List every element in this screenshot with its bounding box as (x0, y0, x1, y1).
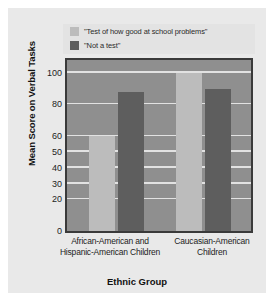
y-tick-label-100: 100 (47, 68, 62, 78)
y-tick-label-60: 60 (52, 131, 62, 141)
legend-swatch-test (70, 27, 79, 36)
x-axis-title: Ethnic Group (8, 276, 266, 287)
y-tick-label-50: 50 (52, 147, 62, 157)
legend-item-0: "Test of how good at school problems" (70, 24, 255, 38)
y-tick-label-20: 20 (52, 194, 62, 204)
y-tick-label-30: 30 (52, 179, 62, 189)
y-axis-title: Mean Score on Verbal Tasks (26, 29, 37, 179)
x-axis-category-0: African-American and Hispanic-American C… (58, 236, 162, 257)
legend-label-test: "Test of how good at school problems" (84, 27, 207, 36)
x-axis-category-1: Caucasian-American Children (166, 236, 258, 257)
gridline-100 (67, 71, 251, 73)
chart-legend: "Test of how good at school problems" "N… (63, 24, 255, 54)
bar-series0-group1 (176, 73, 202, 231)
y-tick-label-0: 0 (57, 226, 62, 236)
bar-series0-group0 (89, 136, 115, 231)
figure-container: "Test of how good at school problems" "N… (8, 8, 266, 293)
y-tick-label-40: 40 (52, 163, 62, 173)
bar-series1-group1 (205, 89, 231, 232)
legend-label-not-a-test: "Not a test" (84, 41, 120, 50)
y-tick-label-80: 80 (52, 99, 62, 109)
legend-item-1: "Not a test" (70, 38, 255, 52)
bar-series1-group0 (118, 92, 144, 231)
plot-inner (67, 60, 251, 231)
plot-area (65, 58, 253, 233)
legend-swatch-not-a-test (70, 41, 79, 50)
y-axis-ticks: 0203040506080100 (38, 58, 65, 233)
